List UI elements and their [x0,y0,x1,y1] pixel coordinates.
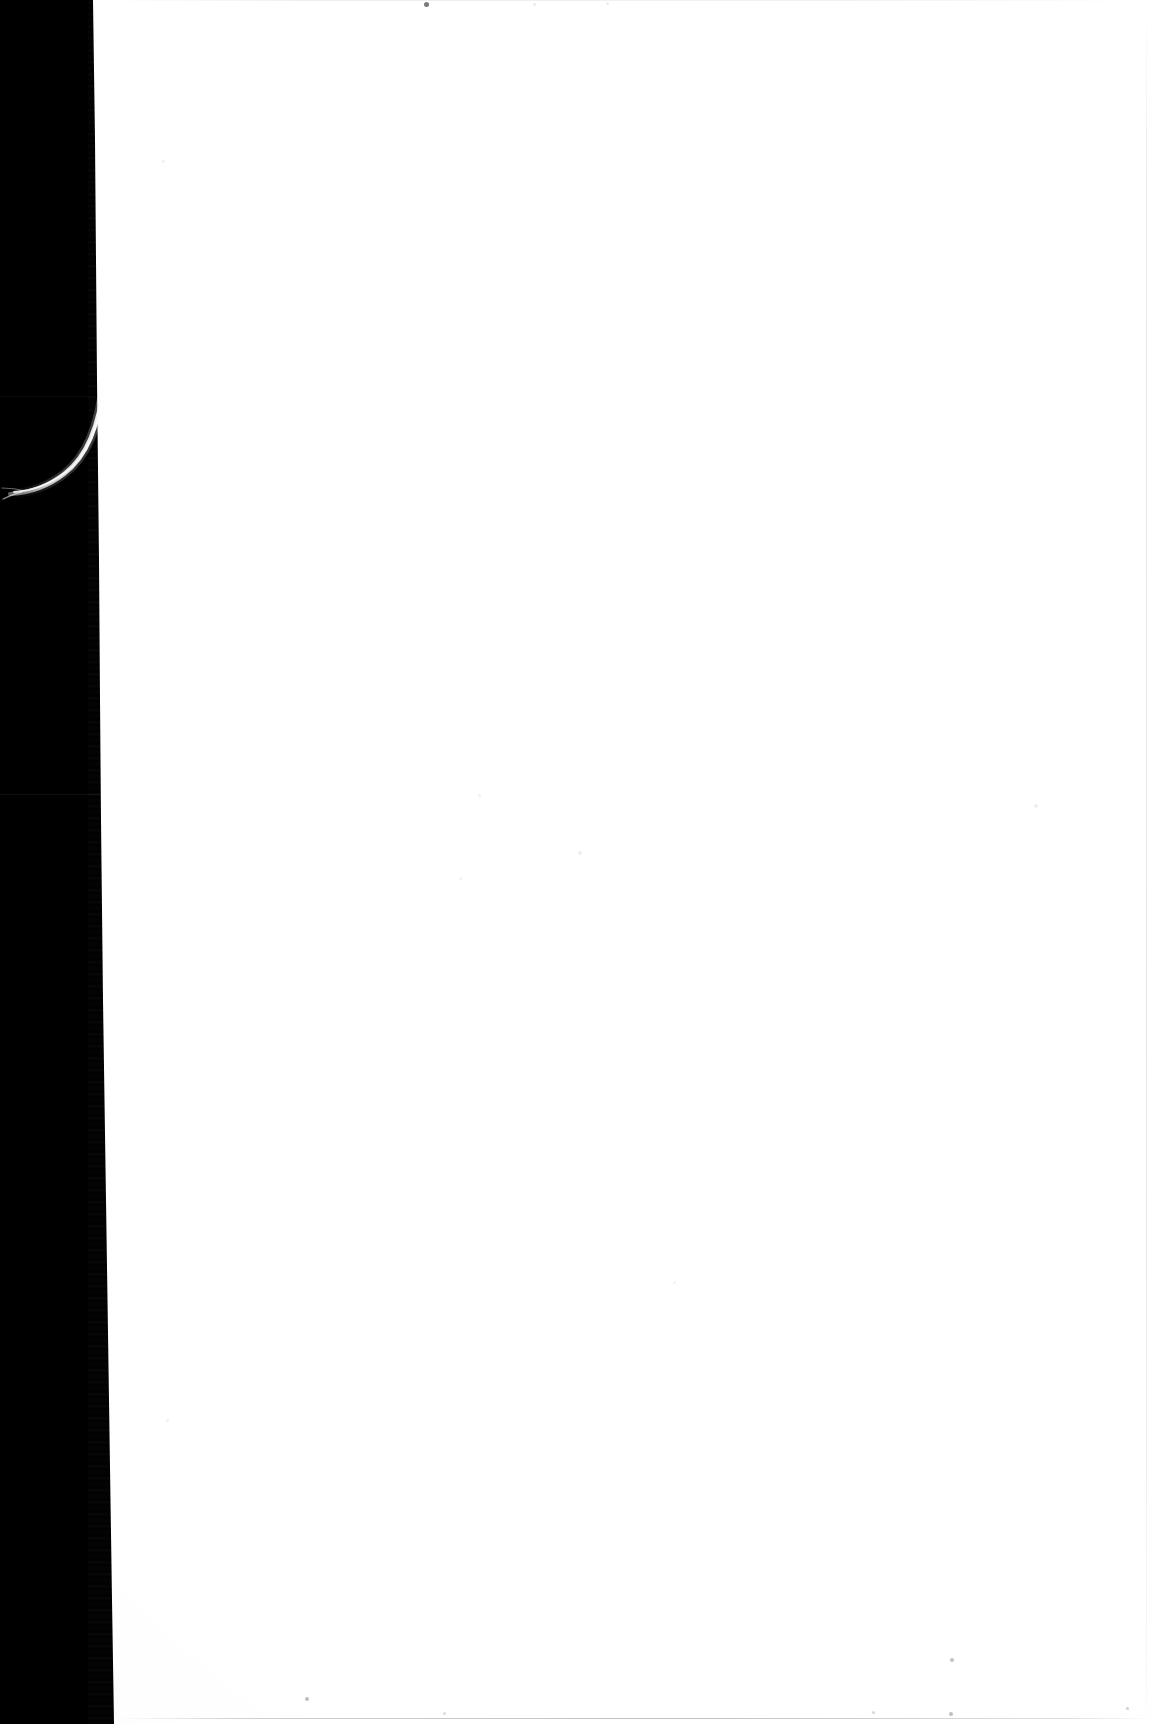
bed-seam-lower [0,794,118,795]
page-content-area [120,40,1130,1690]
bed-seam-upper [0,396,96,397]
edge-rule-top [100,0,1152,1]
edge-rule-bottom [116,1718,1152,1719]
scanned-page-viewport [0,0,1152,1724]
edge-rule-right [1146,0,1147,1724]
